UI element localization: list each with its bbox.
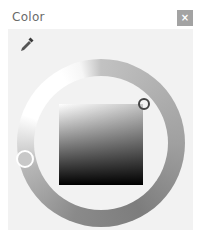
dialog-title: Color <box>12 10 45 24</box>
eyedropper-icon[interactable] <box>18 35 36 53</box>
saturation-value-square[interactable] <box>59 104 143 185</box>
close-button[interactable]: × <box>177 10 193 26</box>
saturation-value-marker[interactable] <box>138 98 150 110</box>
hue-marker[interactable] <box>16 150 34 168</box>
close-icon: × <box>181 13 189 23</box>
